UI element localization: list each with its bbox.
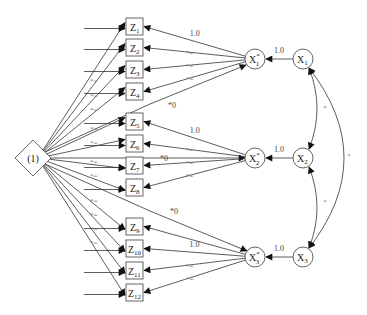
loading-label: *=: [186, 172, 194, 180]
constant-path-label: *=: [90, 77, 98, 85]
constant-to-indicator-arrow: [43, 158, 125, 168]
indicator-z4: Z4: [126, 83, 143, 100]
covariance-arrow: [309, 68, 344, 248]
constant-path-label: *=: [90, 225, 98, 233]
constant-path-label: *=: [90, 172, 98, 180]
latent-x3: X3: [293, 247, 313, 267]
loading-arrow: [144, 258, 245, 270]
constant-to-indicator-arrow: [43, 23, 125, 151]
indicator-z3: Z3: [126, 61, 143, 78]
latent-x2: X2: [293, 148, 313, 168]
covariance-label: *: [347, 152, 351, 160]
indicator-z6: Z6: [126, 135, 143, 152]
loading-arrow: [144, 260, 245, 292]
constant-path-label: *=: [90, 92, 98, 100]
indicator-z2: Z2: [126, 39, 143, 56]
fixed-loading-label: 1.0: [274, 145, 284, 154]
loading-label: *=: [186, 262, 194, 270]
loading-label: 1.0: [190, 29, 200, 38]
covariance-label: *: [323, 104, 327, 112]
path-diagram: (1)Z1Z2Z3Z4Z5Z6Z7Z8Z9Z10Z11Z12X*1X*2X*3X…: [0, 0, 367, 315]
latent-star-x1s: X*1: [245, 49, 265, 69]
constant-label: (1): [27, 153, 39, 165]
constant-path-label: *=: [90, 125, 98, 133]
indicator-z5: Z5: [126, 113, 143, 130]
zero-label: *0: [170, 207, 178, 216]
indicator-z8: Z8: [126, 179, 143, 196]
latent-star-x2s: X*2: [245, 148, 265, 168]
loading-arrow: [144, 60, 245, 70]
indicator-z1: Z1: [126, 18, 143, 35]
loading-arrow: [144, 249, 245, 257]
loading-arrow: [144, 62, 245, 92]
indicator-z9: Z9: [126, 218, 143, 235]
indicator-z7: Z7: [126, 157, 143, 174]
constant-path-label: *=: [90, 211, 98, 219]
latent-star-x3s: X*3: [245, 247, 265, 267]
loading-label: 1.0: [190, 240, 200, 249]
loading-label: 1.0: [190, 126, 200, 135]
loading-label: *=: [186, 159, 194, 167]
constant-path-label: *=: [90, 239, 98, 247]
loading-label: *=: [186, 62, 194, 70]
indicator-z11: Z11: [126, 262, 143, 279]
loading-label: *=: [186, 275, 194, 283]
constant-path-label: *=: [90, 158, 98, 166]
loading-label: *=: [186, 146, 194, 154]
loading-label: *=: [186, 75, 194, 83]
constant-path-label: *=: [90, 106, 98, 114]
indicator-z12: Z12: [126, 284, 143, 301]
zero-label: *0: [168, 101, 176, 110]
constant-path-label: *=: [90, 197, 98, 205]
zero-label: *0: [160, 154, 168, 163]
latent-x1: X1: [293, 49, 313, 69]
indicator-z10: Z10: [126, 240, 143, 257]
covariance-arrow: [309, 167, 317, 248]
constant-to-indicator-arrow: [43, 66, 125, 153]
covariance-label: *: [323, 198, 327, 206]
loading-label: *=: [186, 49, 194, 57]
covariance-arrow: [309, 68, 317, 149]
fixed-loading-label: 1.0: [274, 46, 284, 55]
constant-to-indicator-arrow: [43, 163, 125, 251]
loading-arrow: [144, 48, 245, 58]
constant-to-indicator-arrow: [43, 140, 125, 158]
fixed-loading-label: 1.0: [274, 244, 284, 253]
constant-path-label: *=: [90, 139, 98, 147]
